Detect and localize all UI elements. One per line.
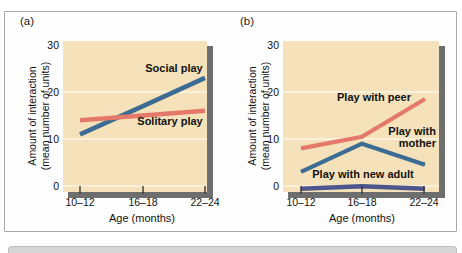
panel-a-x-axis-title: Age (months): [109, 212, 175, 224]
y-axis-title-line2: (mean number of units): [259, 36, 272, 196]
play-with-new-adult-label: Play with new adult: [312, 168, 413, 180]
y-axis-title-line1: Amount of interaction: [26, 36, 39, 196]
panel-a-label: (a): [20, 15, 34, 27]
y-axis-title-line2: (mean number of units): [39, 36, 52, 196]
play-with-peer-label: Play with peer: [337, 91, 411, 103]
panel-a-ytick-0: 0: [53, 180, 59, 192]
panel-b-xlabel-1: 10–12: [286, 196, 315, 208]
panel-a-xlabel-3: 22–24: [190, 196, 219, 208]
play-with-mother-label: Play with mother: [384, 126, 436, 149]
panel-b-label: (b): [240, 15, 254, 27]
panel-b-xlabel-2: 16–18: [347, 196, 376, 208]
panel-b-y-axis-title: Amount of interaction (mean number of un…: [246, 36, 271, 196]
panel-a-xlabel-1: 10–12: [65, 196, 94, 208]
panel-b-plot: 30 20 10 0 10–12 16–18 22–24: [267, 39, 445, 209]
panel-b-ytick-0: 0: [273, 180, 279, 192]
panel-b-xlabel-3: 22–24: [409, 196, 438, 208]
y-axis-title-line1: Amount of interaction: [246, 36, 259, 196]
panel-a-y-axis-title: Amount of interaction (mean number of un…: [26, 36, 51, 196]
play-with-new-adult-line: [301, 186, 425, 188]
panel-a-xlabel-2: 16–18: [128, 196, 157, 208]
social-play-label: Social play: [145, 62, 202, 74]
panel-b-shadow-right: [439, 46, 445, 198]
panel-b-x-axis-title: Age (months): [329, 212, 395, 224]
solitary-play-label: Solitary play: [137, 115, 202, 127]
panel-a-shadow-right: [207, 46, 213, 198]
next-figure-box-edge: [8, 246, 457, 253]
